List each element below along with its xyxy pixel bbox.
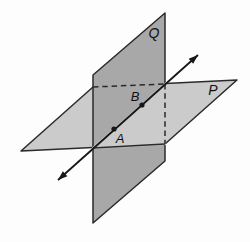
plane-q-label: Q	[149, 25, 160, 41]
point-b-label: B	[131, 89, 140, 104]
planes-diagram-svg: ABQP	[0, 0, 250, 242]
plane-p-label: P	[208, 82, 218, 98]
point-b-dot	[139, 102, 144, 107]
geometry-diagram: ABQP	[0, 0, 250, 242]
point-a-label: A	[115, 131, 125, 146]
